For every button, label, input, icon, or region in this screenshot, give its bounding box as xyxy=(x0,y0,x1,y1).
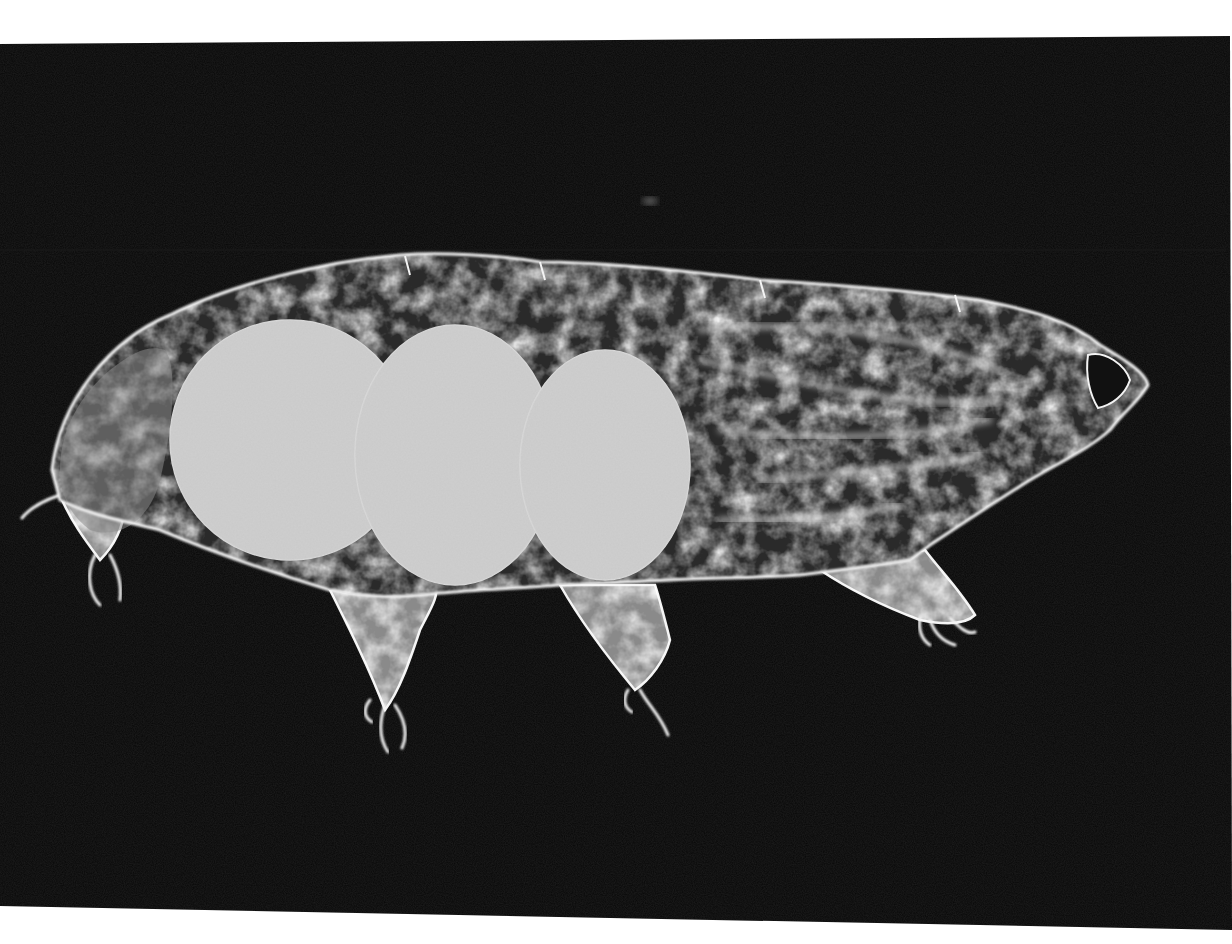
tardigrade-micrograph xyxy=(0,0,1232,944)
image-stage xyxy=(0,0,1232,944)
dust-speck xyxy=(642,197,658,205)
gut-lobe-texture xyxy=(520,350,690,580)
gut-lobes xyxy=(170,320,690,585)
micrograph-photo xyxy=(0,0,1232,944)
